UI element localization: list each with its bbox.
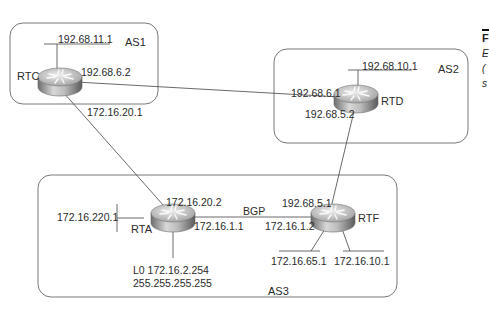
addr-rtd-to-rtf: 192.68.5.2	[305, 108, 355, 120]
caption-fragment-3: (	[482, 62, 485, 75]
router-rtd-label: RTD	[381, 95, 403, 107]
addr-rtf-to-rta: 172.16.1.2	[265, 220, 315, 232]
caption-fragment-4: s	[482, 77, 487, 90]
addr-rtf-lan2: 172.16.10.1	[334, 255, 389, 267]
addr-rtd-to-rtc: 192.68.6.1	[291, 87, 341, 99]
router-rta-label: RTA	[131, 223, 152, 235]
router-rta-icon[interactable]	[151, 204, 195, 232]
router-rtf-label: RTF	[358, 212, 379, 224]
router-rtc-icon[interactable]	[38, 68, 82, 96]
caption-fragment-1: F	[482, 32, 489, 45]
as1-label: AS1	[125, 36, 146, 48]
addr-rtc-lan: 192.68.11.1	[58, 33, 113, 45]
link-rtd-rtf	[330, 107, 355, 212]
addr-rta-loopback-mask: 255.255.255.255	[133, 277, 212, 289]
addr-rtc-to-rtd: 192.68.6.2	[81, 66, 131, 78]
addr-rtf-lan1: 172.16.65.1	[271, 255, 326, 267]
link-label-bgp: BGP	[243, 205, 265, 217]
addr-rta-lan: 172.16.220.1	[57, 211, 118, 223]
addr-rta-to-rtc: 172.16.20.2	[166, 196, 221, 208]
network-diagram	[0, 0, 489, 316]
addr-rtd-lan: 192.68.10.1	[362, 60, 417, 72]
caption-fragment-2: E	[482, 47, 489, 60]
addr-rta-loopback: L0 172.16.2.254	[133, 264, 209, 276]
addr-rta-to-rtf: 172.16.1.1	[194, 220, 244, 232]
as2-label: AS2	[438, 63, 459, 75]
addr-rtc-to-rta: 172.16.20.1	[87, 106, 142, 118]
as3-boundary	[38, 175, 397, 297]
router-rtc-label: RTC	[17, 70, 39, 82]
as3-label: AS3	[268, 285, 289, 297]
addr-rtf-to-rtd: 192.68.5.1	[282, 197, 332, 209]
